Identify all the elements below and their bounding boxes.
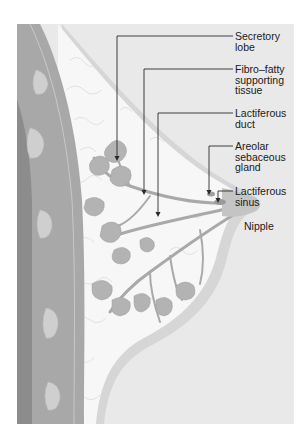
label-fibro-fatty-tissue: Fibro–fatty supporting tissue [235, 64, 285, 96]
label-line: duct [235, 119, 286, 130]
label-line: Nipple [244, 221, 274, 232]
label-nipple: Nipple [244, 221, 274, 232]
label-line: lobe [235, 42, 280, 53]
label-lactiferous-duct: Lactiferous duct [235, 108, 286, 129]
label-line: Lactiferous [235, 108, 286, 119]
lactiferous-sinus-shape [214, 199, 226, 205]
label-secretory-lobe: Secretory lobe [235, 31, 280, 52]
label-lactiferous-sinus: Lactiferous sinus [235, 186, 286, 207]
label-line: Secretory [235, 31, 280, 42]
label-line: tissue [235, 85, 285, 96]
label-line: Fibro–fatty [235, 64, 285, 75]
label-line: gland [235, 162, 286, 173]
label-line: Lactiferous [235, 186, 286, 197]
label-line: sinus [235, 197, 286, 208]
label-line: Areolar [235, 141, 286, 152]
label-areolar-sebaceous-gland: Areolar sebaceous gland [235, 141, 286, 173]
